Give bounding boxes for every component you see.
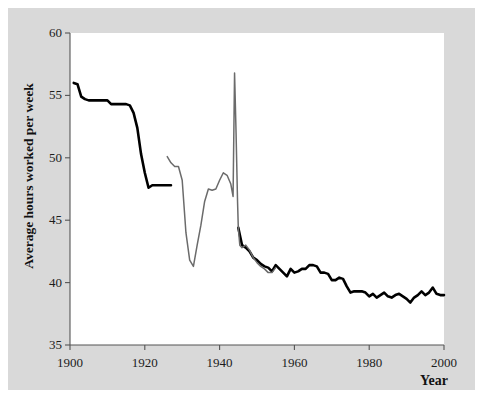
x-tick-label: 2000 — [417, 356, 471, 369]
y-tick-label: 35 — [28, 338, 62, 351]
x-tick-label: 1940 — [193, 356, 247, 369]
series-line — [167, 73, 275, 273]
series-line — [238, 228, 444, 303]
data-series — [74, 73, 444, 303]
x-axis-title: Year — [404, 373, 464, 389]
chart-figure: 354045505560 190019201940196019802000 Av… — [0, 0, 483, 403]
x-tick-label: 1900 — [43, 356, 97, 369]
y-tick-label: 60 — [28, 26, 62, 39]
x-tick-label: 1920 — [118, 356, 172, 369]
y-axis-title: Average hours worked per week — [21, 61, 37, 291]
tick-marks — [65, 33, 444, 350]
chart-svg — [0, 0, 483, 403]
x-tick-label: 1960 — [267, 356, 321, 369]
x-tick-label: 1980 — [342, 356, 396, 369]
series-line — [74, 83, 171, 188]
